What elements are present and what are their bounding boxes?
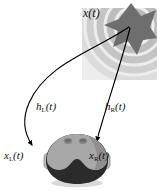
right-ear-signal-label: xR(t) [89, 150, 109, 162]
right-impulse-response-arg: (t) [115, 100, 125, 112]
source-label: x(t) [83, 7, 100, 20]
right-impulse-response-label: hR(t) [105, 101, 125, 113]
left-impulse-response-label: hL(t) [36, 101, 56, 113]
left-ear-signal-arg: (t) [13, 149, 23, 161]
source-label-arg: (t) [88, 6, 99, 20]
right-ear-signal-arg: (t) [98, 149, 108, 161]
left-ear-signal-label: xL(t) [4, 150, 23, 162]
left-impulse-response-arg: (t) [46, 100, 56, 112]
hrtf-figure: x(t) hL(t) hR(t) xL(t) xR(t) [0, 0, 157, 190]
figure-canvas [0, 0, 157, 190]
